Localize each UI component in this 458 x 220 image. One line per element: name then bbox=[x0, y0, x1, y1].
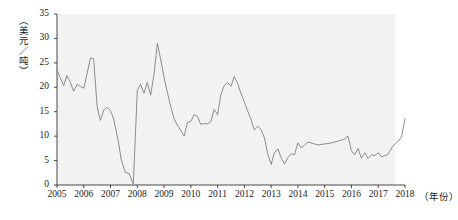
chart-figure: （美元／吨） 05101520253035 200520062007200820… bbox=[0, 0, 458, 220]
y-tick-label: 20 bbox=[25, 81, 49, 91]
y-tick-label: 30 bbox=[25, 32, 49, 42]
y-tick-label: 15 bbox=[25, 106, 49, 116]
axes-group bbox=[57, 14, 405, 185]
y-tick-label: 35 bbox=[25, 8, 49, 18]
chart-canvas bbox=[0, 0, 458, 220]
y-tick-label: 10 bbox=[25, 130, 49, 140]
y-tick-label: 5 bbox=[25, 155, 49, 165]
x-axis-title: （年份） bbox=[419, 189, 458, 203]
y-tick-label: 0 bbox=[25, 179, 49, 189]
data-line-series-0 bbox=[57, 43, 405, 184]
y-tick-label: 25 bbox=[25, 57, 49, 67]
